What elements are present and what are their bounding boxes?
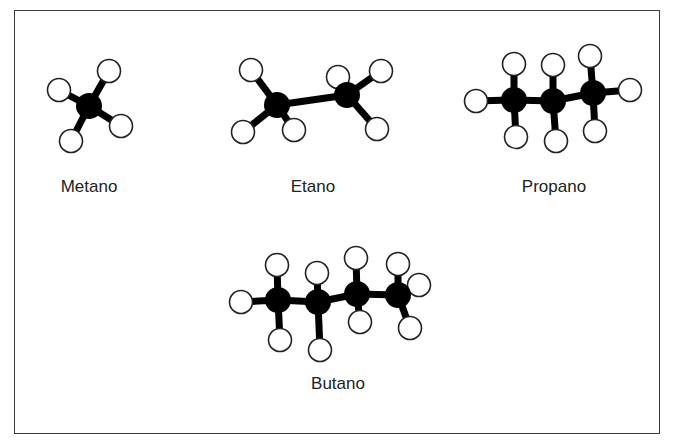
hydrogen-atom <box>110 115 133 138</box>
ethane-label: Etano <box>291 177 335 196</box>
carbon-atom <box>265 287 291 313</box>
hydrogen-atom <box>230 291 253 314</box>
butane-molecule: Butano <box>230 247 431 394</box>
carbon-atom <box>580 80 606 106</box>
hydrogen-atom <box>399 317 422 340</box>
hydrogen-atom <box>48 79 71 102</box>
hydrogen-atom <box>505 126 528 149</box>
methane-label: Metano <box>61 177 118 196</box>
hydrogen-atom <box>306 262 329 285</box>
hydrogen-atom <box>408 274 431 297</box>
hydrogen-atom <box>387 253 410 276</box>
hydrogen-atom <box>60 130 83 153</box>
hydrogen-atom <box>349 311 372 334</box>
hydrogen-atom <box>619 79 642 102</box>
carbon-atom <box>334 82 360 108</box>
hydrogen-atom <box>269 329 292 352</box>
hydrogen-atom <box>503 53 526 76</box>
hydrogen-atom <box>345 247 368 270</box>
hydrogen-atom <box>584 120 607 143</box>
hydrogen-atom <box>283 119 306 142</box>
carbon-atom <box>264 92 290 118</box>
carbon-atom <box>344 281 370 307</box>
ethane-molecule: Etano <box>232 59 393 197</box>
hydrogen-atom <box>542 54 565 77</box>
propane-label: Propano <box>522 177 586 196</box>
carbon-atom <box>385 282 411 308</box>
carbon-atom <box>76 93 102 119</box>
hydrogen-atom <box>545 130 568 153</box>
hydrogen-atom <box>579 45 602 68</box>
hydrogen-atom <box>98 60 121 83</box>
hydrogen-atom <box>366 118 389 141</box>
hydrogen-atom <box>370 60 393 83</box>
butane-label: Butano <box>311 374 365 393</box>
carbon-atom <box>540 88 566 114</box>
methane-molecule: Metano <box>48 60 133 197</box>
carbon-atom <box>501 87 527 113</box>
hydrogen-atom <box>240 59 263 82</box>
hydrogen-atom <box>232 121 255 144</box>
hydrogen-atom <box>309 339 332 362</box>
carbon-atom <box>305 289 331 315</box>
molecule-diagram: Metano Etano Propano Butano <box>0 0 676 444</box>
hydrogen-atom <box>266 254 289 277</box>
propane-molecule: Propano <box>465 45 642 197</box>
hydrogen-atom <box>465 90 488 113</box>
